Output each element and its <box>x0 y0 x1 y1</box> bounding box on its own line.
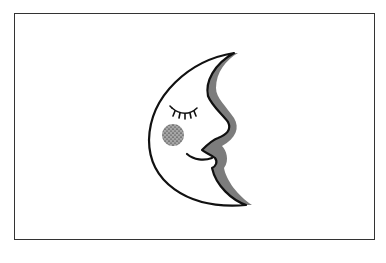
rosy-cheek <box>162 124 184 146</box>
moon-illustration <box>0 0 386 263</box>
